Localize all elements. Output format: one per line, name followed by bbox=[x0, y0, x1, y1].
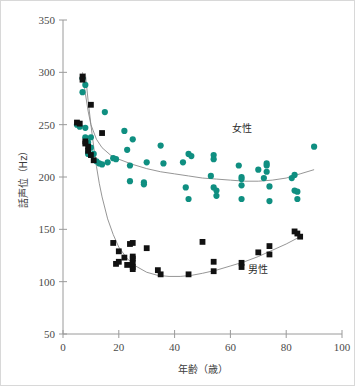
data-point-male bbox=[77, 121, 83, 127]
data-point-female bbox=[180, 159, 186, 165]
data-point-female bbox=[183, 184, 189, 190]
data-point-female bbox=[99, 161, 105, 167]
data-point-male bbox=[211, 268, 217, 274]
data-point-male bbox=[211, 259, 217, 265]
data-point-female bbox=[160, 160, 166, 166]
data-point-female bbox=[88, 134, 94, 140]
y-axis-title: 話声位（Hz） bbox=[17, 146, 29, 209]
x-axis-title: 年齢（歳） bbox=[178, 363, 228, 375]
data-point-female bbox=[255, 167, 261, 173]
data-point-female bbox=[294, 196, 300, 202]
data-point-female bbox=[79, 89, 85, 95]
data-point-male bbox=[144, 245, 150, 251]
data-point-female bbox=[185, 196, 191, 202]
data-point-male bbox=[130, 266, 136, 272]
data-point-female bbox=[264, 162, 270, 168]
data-point-male bbox=[91, 157, 97, 163]
data-point-female bbox=[238, 182, 244, 188]
data-point-female bbox=[127, 178, 133, 184]
data-point-female bbox=[208, 173, 214, 179]
data-point-female bbox=[121, 128, 127, 134]
data-point-male bbox=[297, 234, 303, 240]
x-tick-label: 60 bbox=[225, 341, 237, 353]
data-point-male bbox=[239, 264, 245, 270]
data-point-male bbox=[88, 152, 94, 158]
y-tick-label: 350 bbox=[39, 14, 56, 26]
data-point-female bbox=[294, 189, 300, 195]
data-point-female bbox=[236, 162, 242, 168]
data-point-female bbox=[188, 153, 194, 159]
female-fit bbox=[83, 72, 315, 181]
data-point-male bbox=[116, 248, 122, 254]
data-point-female bbox=[213, 193, 219, 199]
series-male-points bbox=[74, 74, 303, 278]
axes-group: 50100150200250300350020406080100 bbox=[39, 14, 351, 353]
data-point-female bbox=[266, 183, 272, 189]
series-label-female: 女性 bbox=[232, 122, 252, 134]
data-point-female bbox=[105, 159, 111, 165]
data-point-male bbox=[130, 240, 136, 246]
y-tick-label: 150 bbox=[39, 223, 56, 235]
data-point-male bbox=[110, 240, 116, 246]
data-point-male bbox=[267, 243, 273, 249]
x-tick-label: 40 bbox=[169, 341, 181, 353]
series-female-points bbox=[74, 76, 317, 205]
y-tick-label: 100 bbox=[39, 276, 56, 288]
series-label-male: 男性 bbox=[248, 263, 268, 275]
x-tick-label: 100 bbox=[334, 341, 351, 353]
data-point-female bbox=[266, 198, 272, 204]
data-point-female bbox=[127, 162, 133, 168]
data-point-male bbox=[255, 249, 261, 255]
chart-container: 50100150200250300350020406080100 女性男性 年齢… bbox=[1, 1, 355, 386]
y-tick-label: 50 bbox=[44, 328, 56, 340]
data-point-female bbox=[261, 175, 267, 181]
fit-curves-group bbox=[83, 72, 315, 276]
data-point-female bbox=[238, 176, 244, 182]
data-point-male bbox=[124, 262, 130, 268]
data-point-female bbox=[291, 172, 297, 178]
data-point-male bbox=[121, 255, 127, 261]
x-tick-label: 0 bbox=[60, 341, 66, 353]
data-point-female bbox=[130, 136, 136, 142]
data-point-female bbox=[102, 109, 108, 115]
data-point-female bbox=[144, 159, 150, 165]
data-point-female bbox=[211, 156, 217, 162]
data-point-male bbox=[200, 239, 206, 245]
data-point-female bbox=[311, 144, 317, 150]
x-tick-label: 80 bbox=[281, 341, 293, 353]
y-tick-label: 300 bbox=[39, 66, 56, 78]
scatter-chart: 50100150200250300350020406080100 女性男性 年齢… bbox=[1, 1, 355, 386]
data-point-male bbox=[88, 102, 94, 108]
data-point-male bbox=[267, 252, 273, 258]
data-point-female bbox=[158, 143, 164, 149]
data-point-male bbox=[158, 271, 164, 277]
data-point-female bbox=[141, 181, 147, 187]
data-point-female bbox=[238, 196, 244, 202]
data-point-female bbox=[264, 169, 270, 175]
data-point-female bbox=[82, 125, 88, 131]
data-point-male bbox=[186, 271, 192, 277]
data-point-female bbox=[124, 147, 130, 153]
x-tick-label: 20 bbox=[113, 341, 125, 353]
y-tick-label: 250 bbox=[39, 119, 56, 131]
series-annotations: 女性男性 bbox=[232, 122, 269, 275]
data-point-male bbox=[99, 130, 105, 136]
data-point-male bbox=[80, 77, 86, 83]
y-tick-label: 200 bbox=[39, 171, 56, 183]
data-point-male bbox=[116, 259, 122, 265]
figure-frame: 50100150200250300350020406080100 女性男性 年齢… bbox=[0, 0, 355, 386]
data-point-female bbox=[82, 82, 88, 88]
data-point-female bbox=[113, 156, 119, 162]
